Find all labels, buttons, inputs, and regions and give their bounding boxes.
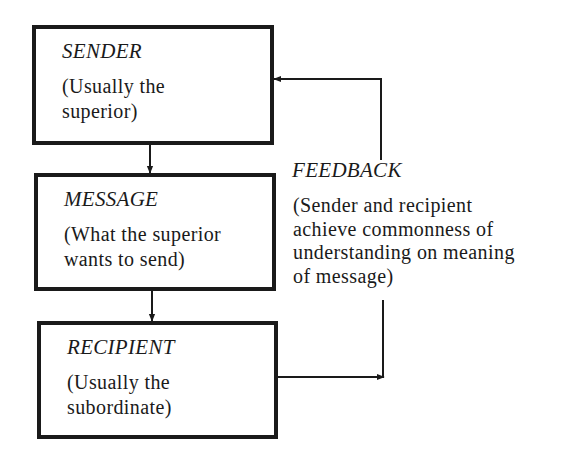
recipient-box: RECIPIENT (Usually the subordinate)	[37, 321, 278, 439]
sender-title: SENDER	[62, 39, 142, 64]
recipient-title: RECIPIENT	[67, 335, 175, 360]
feedback-title: FEEDBACK	[292, 158, 402, 183]
sender-description: (Usually the superior)	[62, 74, 165, 124]
message-title: MESSAGE	[64, 187, 158, 212]
message-box: MESSAGE (What the superior wants to send…	[34, 173, 276, 291]
message-description: (What the superior wants to send)	[64, 222, 221, 272]
feedback-description: (Sender and recipient achieve commonness…	[293, 194, 515, 288]
sender-box: SENDER (Usually the superior)	[32, 25, 274, 145]
recipient-description: (Usually the subordinate)	[67, 370, 172, 420]
